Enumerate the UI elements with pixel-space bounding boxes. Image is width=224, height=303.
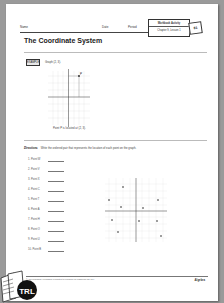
date-label: Date (102, 25, 108, 29)
answer-blank-4[interactable] (48, 191, 64, 192)
question-9: 9. Point U (28, 238, 88, 241)
badge-subtitle: Chapter 9, Lesson 1 (149, 29, 189, 32)
period-label: Period (128, 25, 137, 29)
divider-middle (24, 140, 207, 141)
example-caption: Point P is located at (2, 3). (53, 126, 86, 130)
page-number-tag: 81 (188, 21, 203, 35)
answer-blank-2[interactable] (48, 171, 64, 172)
answer-blank-3[interactable] (48, 181, 64, 182)
question-8: 8. Point O (28, 228, 88, 231)
svg-text:TRL: TRL (19, 287, 35, 296)
svg-text:P: P (80, 72, 82, 76)
answer-blank-1[interactable] (48, 161, 64, 162)
question-3: 3. Point X (28, 178, 88, 181)
answer-blank-5[interactable] (48, 201, 64, 202)
question-2: 2. Point V (28, 168, 88, 171)
divider-top (24, 52, 207, 53)
trl-logo-icon: TRL (0, 268, 40, 303)
worksheet-page: Name Date Period Workbook Activity Chapt… (6, 4, 218, 301)
answer-blank-6[interactable] (48, 211, 64, 212)
footer: ©AGS Publishing. Permission is granted t… (26, 276, 208, 280)
badge-title: Workbook Activity (149, 22, 189, 27)
page-title: The Coordinate System (24, 37, 102, 44)
practice-coordinate-grid (103, 176, 169, 244)
question-7: 7. Point H (28, 218, 88, 221)
answer-blank-8[interactable] (48, 231, 64, 232)
example-label: EXAMPLE (26, 59, 40, 66)
question-4: 4. Point C (28, 188, 88, 191)
question-1: 1. Point W (28, 158, 88, 161)
answer-blank-7[interactable] (48, 221, 64, 222)
question-10: 10. Point B (28, 248, 88, 251)
brand-label: Algebra (195, 278, 205, 282)
question-6: 6. Point A (28, 208, 88, 211)
answer-blank-9[interactable] (48, 241, 64, 242)
question-5: 5. Point T (28, 198, 88, 201)
name-label: Name (20, 25, 28, 29)
directions-label: Directions (24, 146, 38, 150)
example-prompt: Graph (2, 3). (45, 60, 61, 64)
answer-blank-10[interactable] (48, 251, 64, 252)
directions-text: Write the ordered pair that represents t… (41, 146, 137, 150)
name-date-period-line: Name Date Period (20, 24, 160, 33)
workbook-activity-badge: Workbook Activity Chapter 9, Lesson 1 (148, 19, 190, 37)
directions: DirectionsWrite the ordered pair that re… (24, 147, 154, 151)
example-coordinate-grid: P (48, 67, 90, 129)
